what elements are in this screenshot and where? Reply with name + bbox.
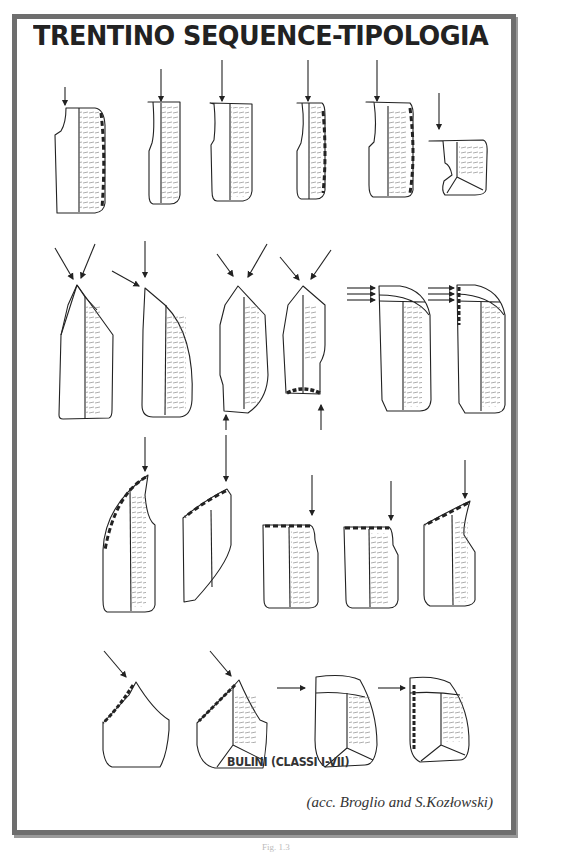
plate-credit: (acc. Broglio and S.Kozłowski) [306, 794, 493, 811]
plate-caption: BULINI (CLASSI I-VII) [227, 754, 349, 769]
row-3-tools [103, 435, 475, 612]
row-4-tools [103, 651, 469, 768]
row-1-tools [55, 60, 487, 213]
burin-typology-drawings [17, 19, 511, 830]
plate-frame: TRENTINO SEQUENCE-TIPOLOGIA [12, 14, 516, 835]
figure-reference: Fig. 1.3 [262, 842, 290, 852]
row-2-tools [55, 241, 505, 430]
